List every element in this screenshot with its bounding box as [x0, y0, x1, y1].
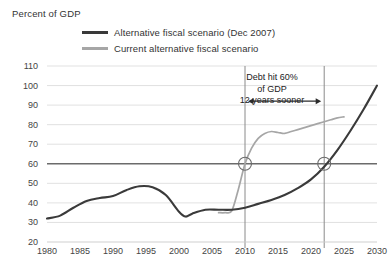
y-axis-title: Percent of GDP [12, 8, 81, 19]
y-tick-label: 50 [12, 178, 38, 188]
x-tick-label: 2000 [169, 246, 189, 256]
legend-swatch-icon-light [82, 47, 108, 50]
y-tick-label: 40 [12, 198, 38, 208]
x-tick-label: 2030 [367, 246, 387, 256]
x-tick-label: 2005 [202, 246, 222, 256]
x-tick-label: 1995 [136, 246, 156, 256]
legend-label: Alternative fiscal scenario (Dec 2007) [114, 27, 275, 38]
x-tick-label: 2025 [334, 246, 354, 256]
y-tick-label: 70 [12, 139, 38, 149]
x-tick-label: 1980 [37, 246, 57, 256]
y-tick-label: 110 [12, 61, 38, 71]
callout-line-1: Debt hit 60% [230, 72, 314, 84]
x-tick-label: 2010 [235, 246, 255, 256]
x-tick-label: 2015 [268, 246, 288, 256]
y-tick-label: 100 [12, 81, 38, 91]
legend-item-alternative-fiscal-scenario-dec-2007: Alternative fiscal scenario (Dec 2007) [82, 26, 275, 39]
x-tick-label: 1985 [70, 246, 90, 256]
callout-line-3: 12 years sooner [230, 95, 314, 107]
y-tick-label: 90 [12, 100, 38, 110]
callout-line-2: of GDP [230, 84, 314, 96]
chart-legend: Alternative fiscal scenario (Dec 2007) C… [82, 26, 275, 55]
x-tick-label: 1990 [103, 246, 123, 256]
legend-swatch-icon-dark [82, 31, 108, 34]
legend-item-current-alternative-fiscal-scenario: Current alternative fiscal scenario [82, 42, 275, 55]
y-tick-label: 30 [12, 217, 38, 227]
y-tick-label: 60 [12, 159, 38, 169]
chart-container: Percent of GDP Alternative fiscal scenar… [0, 0, 388, 272]
callout-annotation: Debt hit 60% of GDP 12 years sooner [230, 72, 314, 107]
x-tick-label: 2020 [301, 246, 321, 256]
y-tick-label: 20 [12, 237, 38, 247]
y-tick-label: 80 [12, 120, 38, 130]
legend-label: Current alternative fiscal scenario [114, 43, 258, 54]
